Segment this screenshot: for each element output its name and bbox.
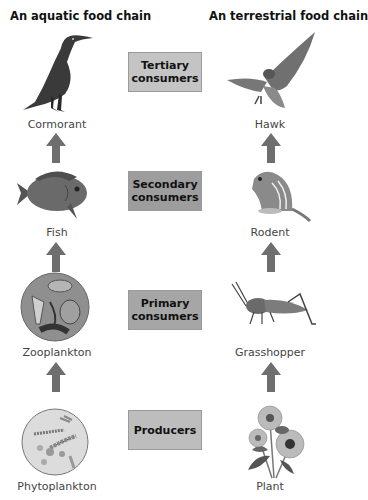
level-box-primary: Primaryconsumers: [128, 290, 202, 330]
organism-label-grasshopper: Grasshopper: [215, 346, 325, 359]
organism-label-hawk: Hawk: [215, 118, 325, 131]
level-label-line1: Secondary: [132, 178, 197, 191]
level-box-producer: Producers: [128, 410, 202, 450]
aquatic-chain-title: An aquatic food chain: [10, 9, 151, 23]
rodent-illustration: [240, 165, 320, 225]
organism-label-zooplankton: Zooplankton: [2, 346, 112, 359]
organism-label-cormorant: Cormorant: [2, 118, 112, 131]
level-box-secondary: Secondaryconsumers: [128, 171, 202, 211]
cormorant-illustration: [15, 30, 95, 115]
level-label-line2: consumers: [131, 310, 198, 323]
up-arrow-icon: [46, 362, 66, 392]
grasshopper-illustration: [228, 280, 323, 330]
level-box-tertiary: Tertiaryconsumers: [128, 52, 202, 92]
up-arrow-icon: [46, 133, 66, 163]
up-arrow-icon: [261, 242, 281, 272]
level-label-line2: consumers: [131, 72, 198, 85]
level-label-line1: Primary: [141, 297, 190, 310]
level-label-line1: Tertiary: [141, 59, 189, 72]
terrestrial-chain-title: An terrestrial food chain: [209, 9, 368, 23]
organism-label-plant: Plant: [215, 480, 325, 493]
organism-label-rodent: Rodent: [215, 226, 325, 239]
up-arrow-icon: [261, 362, 281, 392]
level-label-line2: consumers: [131, 191, 198, 204]
organism-label-fish: Fish: [2, 226, 112, 239]
zooplankton-illustration: [20, 272, 90, 342]
organism-label-phytoplankton: Phytoplankton: [2, 480, 112, 493]
level-label-line1: Producers: [134, 424, 197, 437]
up-arrow-icon: [46, 242, 66, 272]
up-arrow-icon: [261, 133, 281, 163]
fish-illustration: [15, 165, 95, 225]
plant-illustration: [240, 398, 320, 480]
phytoplankton-illustration: [20, 408, 90, 476]
hawk-illustration: [225, 30, 320, 115]
